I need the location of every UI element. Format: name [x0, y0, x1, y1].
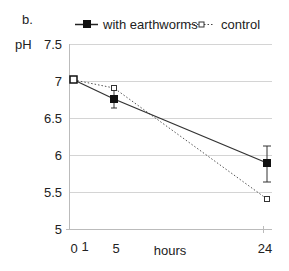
error-bars: [111, 91, 271, 182]
ph-chart: 7.5 7 6.5 6 5.5 5 pH b. 0 1 5 24 hours w…: [0, 0, 289, 271]
gridlines: [69, 45, 272, 193]
data-point: [112, 86, 117, 91]
open-square-marker-icon: [199, 22, 204, 27]
svg-text:0: 0: [70, 241, 77, 256]
y-tick-labels: 7.5 7 6.5 6 5.5 5: [44, 37, 62, 237]
data-point: [110, 95, 118, 103]
svg-text:with earthworms: with earthworms: [102, 17, 198, 32]
panel-label: b.: [22, 12, 33, 27]
legend: with earthworms control: [75, 17, 260, 32]
svg-text:24: 24: [258, 241, 272, 256]
svg-text:6.5: 6.5: [44, 111, 62, 126]
svg-text:7: 7: [55, 74, 62, 89]
svg-text:7.5: 7.5: [44, 37, 62, 52]
series-control-line: [74, 80, 267, 199]
svg-text:1: 1: [81, 239, 88, 254]
data-point: [265, 197, 270, 202]
series-with-earthworms-line: [74, 80, 267, 163]
data-point: [70, 76, 77, 83]
svg-text:6: 6: [55, 148, 62, 163]
svg-text:5: 5: [112, 241, 119, 256]
x-axis-label: hours: [154, 243, 187, 258]
filled-square-marker-icon: [83, 20, 91, 28]
svg-text:5.5: 5.5: [44, 185, 62, 200]
svg-text:5: 5: [55, 222, 62, 237]
y-axis-label: pH: [15, 37, 32, 52]
data-point: [263, 159, 271, 167]
svg-text:control: control: [221, 17, 260, 32]
